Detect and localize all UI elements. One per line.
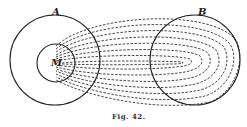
label-a: A bbox=[52, 6, 60, 17]
circle-b bbox=[150, 15, 240, 105]
dashed-field-lines bbox=[56, 19, 240, 106]
field-lines-diagram bbox=[0, 0, 247, 127]
figure-caption: Fig. 42. bbox=[112, 112, 146, 121]
label-b: B bbox=[198, 6, 206, 17]
label-m: M bbox=[51, 57, 62, 68]
